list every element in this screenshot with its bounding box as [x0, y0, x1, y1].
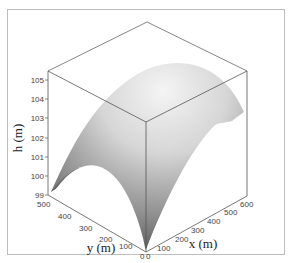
z-tick: 101 [31, 153, 45, 162]
z-axis [45, 80, 48, 195]
z-tick: 102 [31, 134, 45, 143]
y-tick: 0 [140, 252, 145, 261]
z-axis-label: h (m) [10, 124, 25, 153]
y-tick: 500 [37, 200, 51, 209]
x-tick: 300 [191, 226, 205, 235]
cube-back-edges [48, 22, 247, 71]
y-tick: 100 [119, 242, 133, 251]
x-tick: 100 [157, 244, 171, 253]
y-axis-label: y (m) [87, 240, 116, 255]
x-tick: 600 [240, 200, 254, 209]
z-tick: 105 [31, 76, 45, 85]
x-tick: 500 [224, 208, 238, 217]
x-tick: 200 [175, 235, 189, 244]
x-tick: 0 [146, 252, 151, 261]
z-tick: 100 [31, 172, 45, 181]
z-tick: 99 [35, 191, 44, 200]
z-tick: 104 [31, 95, 45, 104]
y-tick: 300 [79, 224, 93, 233]
x-axis-label: x (m) [189, 236, 218, 251]
z-tick: 103 [31, 114, 45, 123]
y-tick: 400 [58, 212, 72, 221]
z-tick-labels: 105 104 103 102 101 100 99 [31, 76, 45, 200]
x-tick: 400 [207, 217, 221, 226]
surface-plot: 105 104 103 102 101 100 99 500 400 300 2… [0, 0, 292, 263]
